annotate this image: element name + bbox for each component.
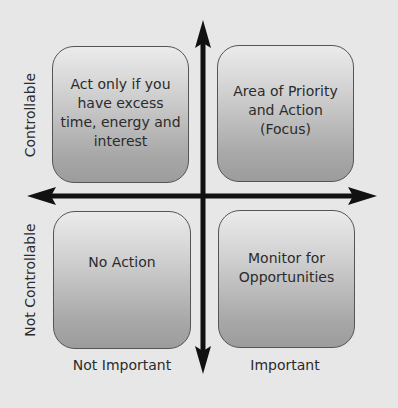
axis-label-not-controllable: Not Controllable (22, 216, 42, 344)
axis-label-controllable: Controllable (22, 65, 42, 165)
axis-label-important: Important (235, 357, 335, 373)
axes (0, 0, 398, 408)
axis-label-not-important: Not Important (62, 357, 182, 373)
quadrant-matrix: Act only if you have excess time, energy… (0, 0, 398, 408)
